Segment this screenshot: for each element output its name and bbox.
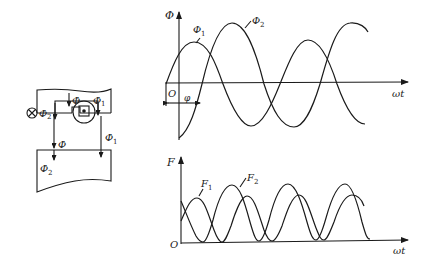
f-axis-label: F <box>166 156 175 169</box>
magnetic-circuit-diagram: Φ̇ Φ̇ 1 Φ̇ 2 Φ̇ Φ̇ 1 Φ̇ 2 <box>27 89 117 192</box>
phi1-label-upper: Φ̇ <box>93 95 101 106</box>
f2-leader-line <box>240 178 246 187</box>
flux-plot: Φ ωt O φ Φ 1 Φ 2 <box>165 9 408 140</box>
phi-label-gap: Φ̇ <box>58 139 66 150</box>
phi2-series-sub: 2 <box>260 21 264 29</box>
f1-series-sub: 1 <box>208 184 212 192</box>
phi2-sub-lower: 2 <box>48 169 52 177</box>
phi1-sub-upper: 1 <box>101 100 105 108</box>
omega-t-axis-label: ωt <box>392 88 405 99</box>
phi-axis-label: Φ <box>165 9 174 22</box>
phi2-sub-upper: 2 <box>47 113 51 121</box>
phi-label-upper: Φ̇ <box>72 95 80 106</box>
origin-label-bottom: O <box>170 239 178 250</box>
f1-leader-line <box>199 189 203 196</box>
phi1-sub-gap: 1 <box>113 138 117 146</box>
dot-current-icon <box>82 109 86 113</box>
phi2-curve <box>179 23 368 138</box>
phi1-series-label: Φ <box>193 24 201 35</box>
omega-t-x-axis <box>165 82 408 83</box>
f2-curve <box>181 184 370 242</box>
phi2-label-lower: Φ̇ <box>40 163 48 174</box>
figure-canvas: Φ̇ Φ̇ 1 Φ̇ 2 Φ̇ Φ̇ 1 Φ̇ 2 Φ ωt O φ Φ 1 Φ <box>0 0 432 273</box>
cross-current-icon-x <box>29 110 36 117</box>
phi2-series-label: Φ <box>252 15 260 26</box>
mmf-plot: F ωt O F 1 F 2 <box>166 156 408 256</box>
omega-t-x-axis-bottom <box>181 240 408 243</box>
origin-label: O <box>168 88 176 99</box>
phi1-label-gap: Φ̇ <box>105 132 113 143</box>
phi2-leader-line <box>245 21 251 28</box>
f2-series-sub: 2 <box>254 178 258 186</box>
phi1-series-sub: 1 <box>201 30 205 38</box>
phase-phi-label: φ <box>184 93 191 103</box>
omega-t-axis-label-bottom: ωt <box>393 245 406 256</box>
phi2-label-upper: Φ̇ <box>39 108 47 119</box>
